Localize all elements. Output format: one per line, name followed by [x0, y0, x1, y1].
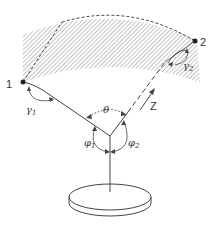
phi1-label: φ1 [84, 137, 95, 150]
phi1-arrow-head [105, 149, 110, 154]
path-2-dashed [128, 62, 165, 112]
z-arrow-head [149, 88, 155, 95]
theta-arrow-head [86, 114, 92, 119]
hatched-layer [23, 19, 200, 82]
antenna-geometry-diagram: 1 2 γ1 γ2 θ φ1 φ2 Z [0, 0, 214, 232]
phi2-label: φ2 [128, 137, 140, 150]
point-1-label: 1 [6, 78, 12, 90]
point-2-label: 2 [200, 36, 206, 48]
gamma1-arrow-head [27, 86, 31, 91]
z-axis-label: Z [150, 100, 157, 112]
theta-label: θ [103, 104, 109, 115]
point-1 [21, 80, 26, 85]
phi2-arrow-head [110, 149, 115, 154]
point-2 [193, 39, 198, 44]
phi2-arc [112, 122, 127, 152]
gamma1-label: γ1 [26, 104, 36, 117]
